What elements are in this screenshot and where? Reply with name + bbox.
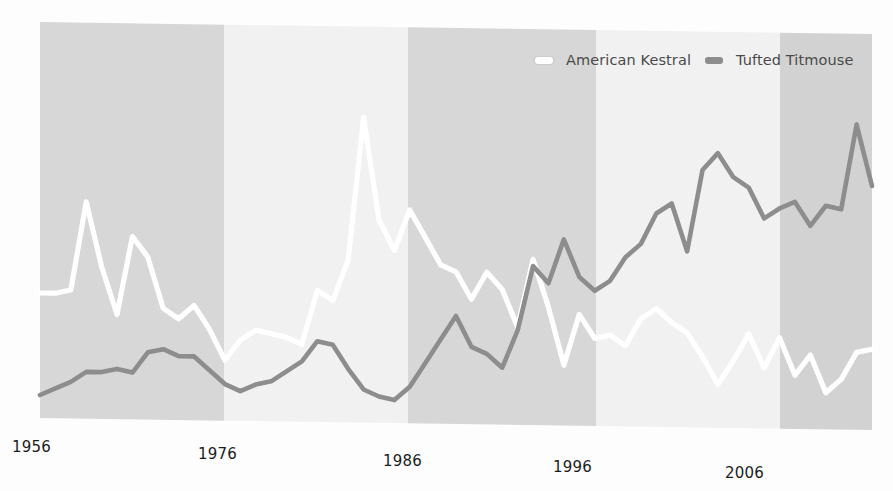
legend-entry-american-kestral[interactable]: American Kestral (535, 52, 691, 68)
x-tick-label: 2006 (725, 464, 764, 482)
legend-label-american-kestral: American Kestral (566, 52, 691, 68)
chart-page: American Kestral Tufted Titmouse 1956197… (0, 0, 893, 491)
x-tick-label: 1996 (553, 458, 592, 476)
x-tick-label: 1986 (383, 452, 422, 470)
background-band (596, 30, 780, 429)
legend-swatch-american-kestral (535, 57, 553, 64)
legend-entry-tufted-titmouse[interactable]: Tufted Titmouse (705, 52, 853, 68)
x-tick-label: 1976 (198, 445, 237, 463)
chart-legend: American Kestral Tufted Titmouse (535, 52, 853, 68)
background-bands (40, 22, 872, 430)
x-tick-label: 1956 (12, 438, 51, 456)
legend-swatch-tufted-titmouse (705, 57, 723, 64)
legend-label-tufted-titmouse: Tufted Titmouse (736, 52, 853, 68)
